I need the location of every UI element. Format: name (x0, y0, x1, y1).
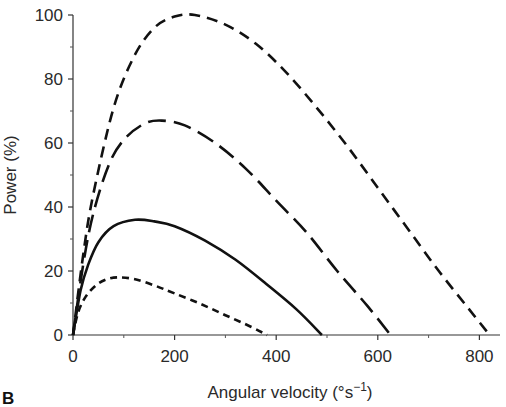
y-tick-label: 100 (35, 6, 63, 25)
power-velocity-chart: 0204060801000200400600800 Power (%) Angu… (0, 0, 506, 407)
x-tick-label: 200 (160, 347, 188, 366)
x-axis-title: Angular velocity (°s−1) (207, 380, 372, 402)
y-tick-label: 20 (44, 262, 63, 281)
x-axis-title-base: Angular velocity (°s (207, 383, 353, 402)
series-line-4 (73, 277, 267, 335)
x-tick-label: 400 (262, 347, 290, 366)
x-tick-label: 600 (364, 347, 392, 366)
y-axis-title: Power (%) (1, 135, 20, 214)
series-line-1 (73, 14, 490, 335)
x-tick-label: 800 (465, 347, 493, 366)
y-tick-label: 60 (44, 134, 63, 153)
y-tick-label: 0 (54, 326, 63, 345)
y-tick-label: 80 (44, 70, 63, 89)
axes: 0204060801000200400600800 (35, 6, 500, 366)
series-line-2 (73, 121, 391, 335)
panel-label: B (2, 389, 14, 407)
y-tick-label: 40 (44, 198, 63, 217)
x-axis-title-close: ) (367, 383, 373, 402)
x-axis-title-superscript: −1 (353, 380, 367, 394)
x-tick-label: 0 (68, 347, 77, 366)
curves (73, 14, 490, 335)
